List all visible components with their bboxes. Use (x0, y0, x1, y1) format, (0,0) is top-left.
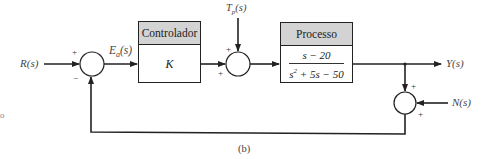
input-label: R(s) (20, 57, 38, 69)
tf-denominator: s2 + 5s − 50 (289, 64, 343, 81)
controller-title: Controlador (139, 22, 200, 45)
disturbance-label: Tp(s) (226, 2, 246, 16)
sign-noise-right: + (418, 109, 423, 119)
transfer-fraction: s − 20 s2 + 5s − 50 (289, 49, 343, 81)
tf-numerator: s − 20 (289, 49, 343, 64)
process-block: Processo s − 20 s2 + 5s − 50 (280, 22, 353, 83)
summing-junction-noise (394, 92, 416, 114)
output-label: Y(s) (446, 57, 464, 69)
stray-mark: o (0, 110, 5, 120)
sign-disturbance-top: + (226, 44, 231, 54)
process-title: Processo (281, 23, 352, 46)
controller-block: Controlador K (138, 21, 201, 83)
error-base: E (109, 44, 116, 56)
summing-junction-error (80, 52, 104, 76)
sign-noise-top: + (411, 81, 416, 91)
sign-error-minus: − (73, 73, 78, 83)
summing-junction-disturbance (226, 52, 250, 76)
process-transfer-function: s − 20 s2 + 5s − 50 (281, 46, 352, 82)
figure-caption: (b) (238, 143, 250, 154)
noise-label: N(s) (452, 96, 471, 108)
tf-den-rest: + 5s − 50 (297, 68, 344, 80)
feedback-wire (91, 77, 405, 134)
sign-disturbance-left: + (218, 68, 223, 78)
error-arg: (s) (120, 44, 132, 56)
sign-error-plus: + (72, 47, 77, 57)
controller-gain: K (139, 45, 200, 83)
disturbance-arg: (s) (235, 2, 246, 13)
error-label: Ea(s) (109, 44, 132, 59)
